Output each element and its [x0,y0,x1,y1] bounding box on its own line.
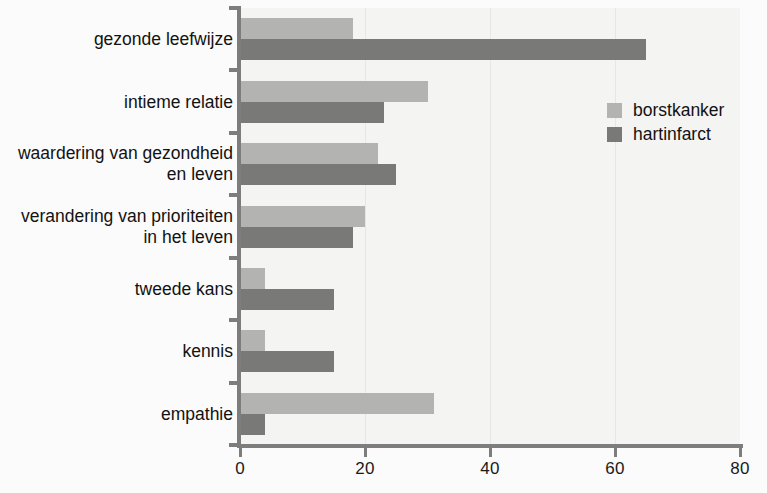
x-tick-60 [614,448,617,457]
bar-borstkanker-5 [240,330,265,351]
y-tick-5 [229,318,238,322]
category-label-3: verandering van prioriteiten in het leve… [0,206,233,248]
x-tick-label-20: 20 [355,459,374,479]
bar-hartinfarct-3 [240,227,353,248]
bar-borstkanker-2 [240,143,378,164]
bar-hartinfarct-0 [240,39,646,60]
legend-item-hartinfarct: hartinfarct [607,124,724,145]
category-label-2: waardering van gezondheid en leven [0,143,233,185]
bar-borstkanker-3 [240,206,365,227]
bar-hartinfarct-1 [240,102,384,123]
bar-borstkanker-4 [240,268,265,289]
category-label-4: tweede kans [0,278,233,299]
category-label-6: empathie [0,403,233,424]
bar-hartinfarct-4 [240,289,334,310]
x-tick-0 [239,448,242,457]
y-tick-3 [229,193,238,197]
bar-hartinfarct-5 [240,351,334,372]
y-tick-6 [229,381,238,385]
bar-hartinfarct-2 [240,164,396,185]
legend: borstkanker hartinfarct [607,100,724,148]
bar-borstkanker-1 [240,81,428,102]
bar-borstkanker-6 [240,393,434,414]
legend-label-hartinfarct: hartinfarct [633,124,711,145]
bar-borstkanker-0 [240,18,353,39]
bar-hartinfarct-6 [240,414,265,435]
y-tick-4 [229,256,238,260]
x-tick-label-0: 0 [235,459,245,479]
bar-chart: 020406080 gezonde leefwijzeintieme relat… [0,0,767,493]
category-label-1: intieme relatie [0,91,233,112]
legend-swatch-icon-hartinfarct [607,127,622,142]
legend-swatch-icon-borstkanker [607,103,622,118]
category-label-0: gezonde leefwijze [0,29,233,50]
x-tick-80 [739,448,742,457]
x-tick-label-80: 80 [730,459,749,479]
plot-area [240,8,740,445]
legend-label-borstkanker: borstkanker [633,100,724,121]
category-label-5: kennis [0,341,233,362]
gridline-20 [365,8,366,445]
x-tick-label-40: 40 [480,459,499,479]
x-tick-label-60: 60 [605,459,624,479]
x-tick-40 [489,448,492,457]
y-tick-2 [229,131,238,135]
gridline-60 [615,8,616,445]
y-tick-1 [229,68,238,72]
legend-item-borstkanker: borstkanker [607,100,724,121]
gridline-40 [490,8,491,445]
x-tick-20 [364,448,367,457]
y-tick-0 [229,6,238,10]
y-tick-7 [229,443,238,447]
